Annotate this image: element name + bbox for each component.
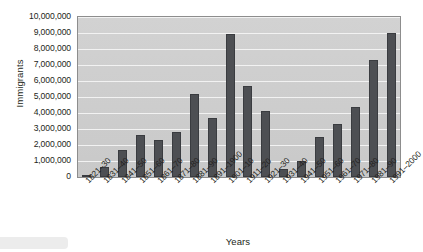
bar-slot — [346, 17, 364, 177]
bar-slot — [78, 17, 96, 177]
bar-slot — [275, 17, 293, 177]
bar-slot — [114, 17, 132, 177]
y-axis-tick-label: 9,000,000 — [34, 27, 71, 37]
bar-slot — [150, 17, 168, 177]
bar-slot — [257, 17, 275, 177]
bar-slot — [96, 17, 114, 177]
y-axis-tick-label: 7,000,000 — [34, 59, 71, 69]
y-axis-tick-label: 1,000,000 — [34, 155, 71, 165]
y-axis-tick-labels: 10,000,0009,000,0008,000,0007,000,0006,0… — [0, 10, 74, 182]
bar-slot — [328, 17, 346, 177]
y-axis-tick-label: 8,000,000 — [34, 43, 71, 53]
bar-slot — [132, 17, 150, 177]
bar-slot — [382, 17, 400, 177]
bar-slot — [364, 17, 382, 177]
y-axis-tick-label: 3,000,000 — [34, 123, 71, 133]
bar-slot — [185, 17, 203, 177]
bar-slot — [293, 17, 311, 177]
y-axis-tick-label: 0 — [66, 171, 71, 181]
bar-slot — [167, 17, 185, 177]
x-axis-tick-labels: 1821–301831–401841–501851–601861–701871–… — [77, 178, 399, 234]
x-axis-title: Years — [77, 236, 399, 247]
y-axis-tick-label: 5,000,000 — [34, 91, 71, 101]
bar-slot — [311, 17, 329, 177]
y-axis-tick-label: 4,000,000 — [34, 107, 71, 117]
bar-slot — [203, 17, 221, 177]
y-axis-tick-label: 10,000,000 — [29, 11, 71, 21]
y-axis-tick-label: 2,000,000 — [34, 139, 71, 149]
y-axis-tick-label: 6,000,000 — [34, 75, 71, 85]
corner-artifact — [0, 237, 68, 249]
